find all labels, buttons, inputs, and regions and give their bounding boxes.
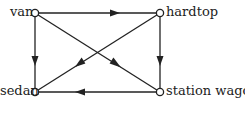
arrowhead-icon <box>75 58 85 68</box>
node-label-station-wagon: station wagon <box>166 84 245 98</box>
arrowhead-icon <box>157 56 164 66</box>
arrowhead-icon <box>110 58 121 68</box>
node-station-wagon <box>156 88 163 95</box>
arrowhead-icon <box>110 10 120 17</box>
node-label-van: van <box>10 5 33 19</box>
node-hardtop <box>156 9 163 16</box>
arrowhead-icon <box>75 89 85 96</box>
node-label-sedan: sedan <box>0 84 39 98</box>
node-label-hardtop: hardtop <box>166 5 218 19</box>
arrowhead-icon <box>32 56 39 66</box>
